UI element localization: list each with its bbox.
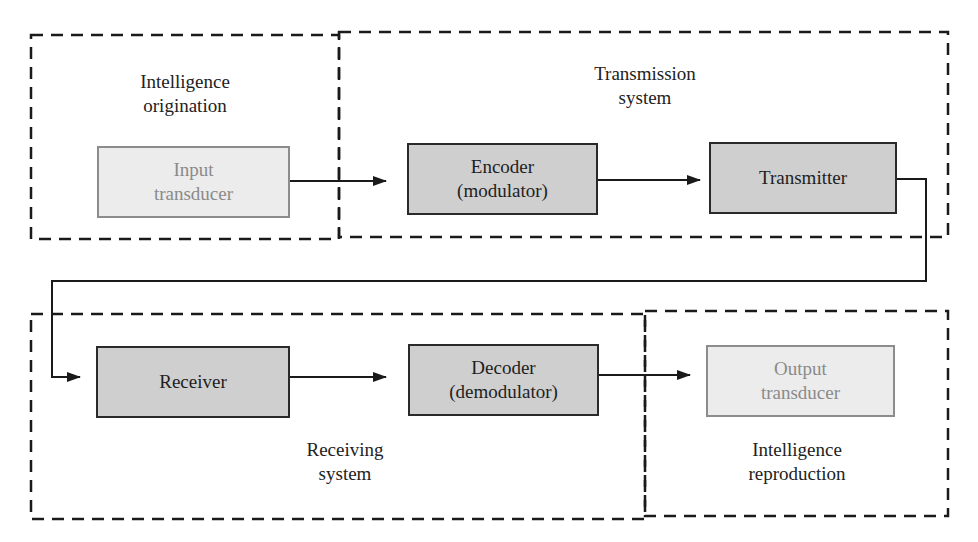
region-label-receiving-system: Receiving system: [260, 438, 430, 486]
block-input-transducer: Input transducer: [97, 146, 290, 218]
communication-system-diagram: Intelligence origination Transmission sy…: [0, 0, 978, 542]
region-label-intelligence-origination: Intelligence origination: [100, 70, 270, 118]
block-transmitter: Transmitter: [709, 142, 897, 214]
block-receiver: Receiver: [96, 346, 290, 418]
block-decoder: Decoder (demodulator): [408, 344, 599, 416]
region-label-intelligence-reproduction: Intelligence reproduction: [712, 438, 882, 486]
region-label-transmission-system: Transmission system: [560, 62, 730, 110]
block-encoder: Encoder (modulator): [407, 143, 598, 215]
block-output-transducer: Output transducer: [706, 345, 895, 417]
